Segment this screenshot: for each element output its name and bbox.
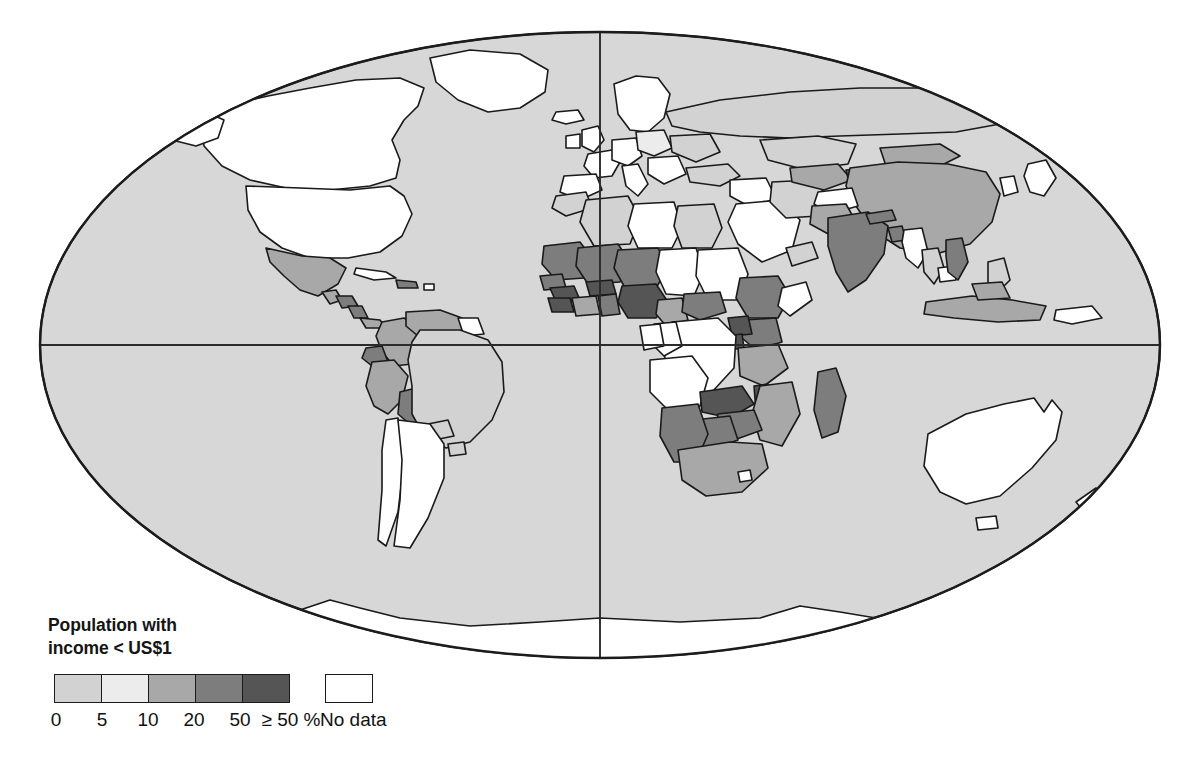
legend-swatch-0-5 <box>55 675 102 702</box>
legend-swatch-row <box>48 674 468 704</box>
legend-title: Population withincome < US$1 <box>48 614 468 660</box>
legend-nodata-label: No data <box>320 709 387 731</box>
region-ireland <box>566 134 580 148</box>
legend-swatch-5-10 <box>102 675 149 702</box>
legend-tick-20: 20 <box>183 709 204 731</box>
region-cote-divoire <box>572 296 600 316</box>
region-uruguay <box>448 442 466 456</box>
legend-tick-50: 50 <box>229 709 250 731</box>
region-egypt <box>674 204 722 248</box>
legend-title-line1: Population with <box>48 615 177 635</box>
legend-tick-labels: 0 5 10 20 50 ≥ 50 % No data <box>48 709 468 737</box>
map-legend: Population withincome < US$1 0 5 10 20 5… <box>48 614 468 737</box>
region-burkina-faso <box>586 280 616 296</box>
region-korea <box>1000 176 1018 196</box>
legend-swatch-10-20 <box>149 675 196 702</box>
legend-tick-10: 10 <box>137 709 158 731</box>
region-tasmania <box>976 516 998 530</box>
region-lesotho <box>738 470 752 482</box>
legend-swatch-20-50 <box>196 675 243 702</box>
legend-tick-5: 5 <box>97 709 108 731</box>
world-choropleth-map: Population withincome < US$1 0 5 10 20 5… <box>0 0 1180 770</box>
region-ghana <box>598 294 620 316</box>
legend-tick-50-plus: ≥ 50 % <box>261 709 320 731</box>
region-haiti-dominican <box>396 280 418 288</box>
legend-nodata-swatch <box>325 674 373 703</box>
region-sierra-leone-liberia <box>548 298 574 312</box>
legend-swatch-50-plus <box>243 675 289 702</box>
region-puerto-rico <box>424 284 434 290</box>
legend-title-line2: income < US$1 <box>48 638 172 658</box>
legend-tick-0: 0 <box>51 709 62 731</box>
legend-color-ramp <box>54 674 290 703</box>
